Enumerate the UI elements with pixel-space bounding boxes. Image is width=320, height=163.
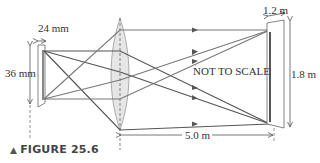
ray-direction-arrows	[192, 28, 198, 127]
slide-width-label: 24 mm	[38, 23, 69, 34]
screen-height-label: 1.8 m	[291, 69, 316, 80]
figure-caption: ▲FIGURE 25.6	[10, 143, 99, 156]
not-to-scale-note: NOT TO SCALE	[193, 66, 270, 77]
slide-frame	[38, 45, 45, 107]
screen-width-label: 1.2 m	[263, 5, 288, 16]
distance-label: 5.0 m	[185, 130, 210, 141]
slide-height-label: 36 mm	[5, 68, 36, 79]
triangle-up-icon: ▲	[10, 145, 17, 155]
figure-caption-text: FIGURE 25.6	[20, 143, 99, 156]
